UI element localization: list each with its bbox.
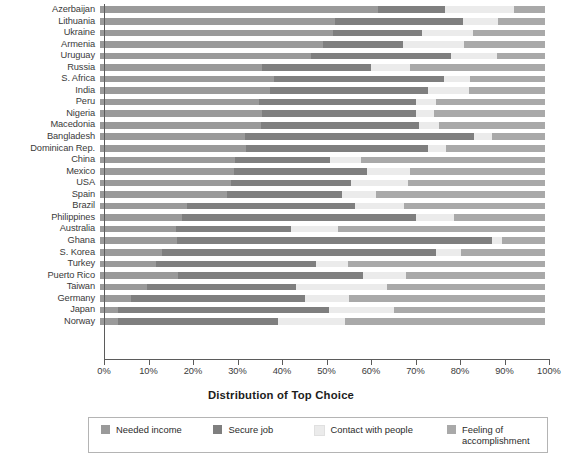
x-tick-label: 90% — [495, 366, 514, 376]
bar-row: Nigeria — [0, 108, 562, 120]
bar-segment-needed-income — [100, 53, 311, 60]
bar-segment-needed-income — [100, 237, 177, 244]
bar-segment-needed-income — [100, 284, 147, 291]
bar-row: S. Korea — [0, 246, 562, 258]
row-label-ghana: Ghana — [0, 235, 100, 247]
stacked-bar — [100, 76, 545, 83]
bar-row: Russia — [0, 62, 562, 74]
bar-rows: AzerbaijanLithuaniaUkraineArmeniaUruguay… — [0, 4, 562, 327]
bar-segment-feeling-of-accomplishment — [410, 64, 545, 71]
row-label-s-africa: S. Africa — [0, 73, 100, 85]
x-tick-label: 30% — [228, 366, 247, 376]
bar-row: Germany — [0, 293, 562, 305]
bar-segment-secure-job — [178, 272, 363, 279]
legend-swatch-icon — [314, 425, 325, 436]
row-label-mexico: Mexico — [0, 166, 100, 178]
row-label-brazil: Brazil — [0, 200, 100, 212]
bar-segment-feeling-of-accomplishment — [408, 180, 545, 187]
bar-row: S. Africa — [0, 73, 562, 85]
stacked-bar — [100, 180, 545, 187]
stacked-bar — [100, 191, 545, 198]
bar-segment-needed-income — [100, 307, 118, 314]
stacked-bar — [100, 18, 545, 25]
x-tick-mark — [505, 360, 506, 365]
bar-segment-contact-with-people — [444, 76, 471, 83]
bar-segment-feeling-of-accomplishment — [514, 6, 545, 13]
bar-segment-needed-income — [100, 133, 245, 140]
bar-segment-secure-job — [156, 261, 316, 268]
bar-segment-secure-job — [259, 99, 416, 106]
bar-segment-secure-job — [311, 53, 451, 60]
bar-segment-needed-income — [100, 180, 231, 187]
legend-swatch-icon — [101, 425, 110, 434]
x-tick-label: 70% — [406, 366, 425, 376]
stacked-bar — [100, 64, 545, 71]
bar-segment-secure-job — [262, 110, 416, 117]
row-label-taiwan: Taiwan — [0, 281, 100, 293]
row-label-uruguay: Uruguay — [0, 50, 100, 62]
chart-legend: Needed incomeSecure jobContact with peop… — [88, 417, 548, 453]
bar-segment-feeling-of-accomplishment — [454, 214, 545, 221]
bar-row: China — [0, 154, 562, 166]
bar-segment-needed-income — [100, 64, 262, 71]
bar-segment-secure-job — [274, 76, 443, 83]
stacked-bar — [100, 237, 545, 244]
x-tick-mark — [416, 360, 417, 365]
bar-segment-contact-with-people — [445, 6, 514, 13]
bar-segment-feeling-of-accomplishment — [497, 53, 545, 60]
x-tick-mark — [149, 360, 150, 365]
bar-segment-feeling-of-accomplishment — [345, 318, 545, 325]
bar-row: Bangladesh — [0, 131, 562, 143]
stacked-bar — [100, 99, 545, 106]
bar-row: Puerto Rico — [0, 270, 562, 282]
row-label-peru: Peru — [0, 96, 100, 108]
bar-segment-contact-with-people — [296, 284, 387, 291]
bar-segment-feeling-of-accomplishment — [461, 249, 545, 256]
row-label-india: India — [0, 85, 100, 97]
x-tick-mark — [549, 360, 550, 365]
bar-row: Norway — [0, 316, 562, 328]
x-tick-mark — [327, 360, 328, 365]
x-tick-label: 40% — [273, 366, 292, 376]
bar-segment-needed-income — [100, 145, 246, 152]
bar-row: Philippines — [0, 212, 562, 224]
bar-segment-secure-job — [335, 18, 463, 25]
bar-segment-feeling-of-accomplishment — [498, 18, 545, 25]
bar-segment-feeling-of-accomplishment — [404, 203, 545, 210]
row-label-nigeria: Nigeria — [0, 108, 100, 120]
bar-segment-needed-income — [100, 318, 118, 325]
bar-segment-feeling-of-accomplishment — [502, 237, 545, 244]
bar-segment-contact-with-people — [428, 145, 446, 152]
bar-segment-contact-with-people — [416, 110, 434, 117]
bar-segment-secure-job — [176, 226, 292, 233]
bar-segment-needed-income — [100, 76, 274, 83]
row-label-philippines: Philippines — [0, 212, 100, 224]
bar-segment-secure-job — [182, 214, 416, 221]
row-label-azerbaijan: Azerbaijan — [0, 4, 100, 16]
row-label-bangladesh: Bangladesh — [0, 131, 100, 143]
bar-row: USA — [0, 177, 562, 189]
bar-row: Spain — [0, 189, 562, 201]
bar-segment-secure-job — [261, 122, 419, 129]
x-tick-mark — [193, 360, 194, 365]
stacked-bar — [100, 41, 545, 48]
bar-segment-secure-job — [231, 180, 351, 187]
stacked-bar — [100, 318, 545, 325]
bar-segment-feeling-of-accomplishment — [349, 295, 545, 302]
legend-item-feeling-of-accomplishment: Feeling of accomplishment — [447, 424, 547, 446]
bar-segment-needed-income — [100, 157, 235, 164]
bar-segment-contact-with-people — [367, 168, 410, 175]
bar-segment-feeling-of-accomplishment — [469, 87, 545, 94]
x-tick-label: 100% — [537, 366, 561, 376]
bar-row: Australia — [0, 223, 562, 235]
bar-row: Brazil — [0, 200, 562, 212]
bar-row: Azerbaijan — [0, 4, 562, 16]
bar-segment-contact-with-people — [330, 157, 361, 164]
bar-segment-contact-with-people — [305, 295, 350, 302]
bar-segment-secure-job — [333, 30, 422, 37]
bar-row: Ghana — [0, 235, 562, 247]
bar-row: Macedonia — [0, 119, 562, 131]
legend-item-needed-income: Needed income — [101, 424, 213, 435]
bar-row: Dominican Rep. — [0, 143, 562, 155]
x-tick-label: 60% — [362, 366, 381, 376]
